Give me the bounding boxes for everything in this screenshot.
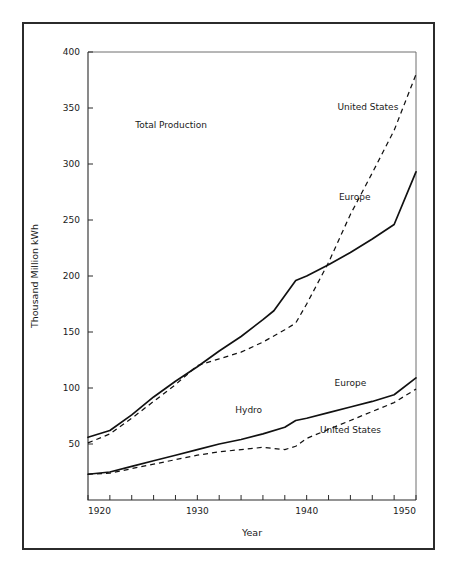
annotation-total-production: Total Production bbox=[134, 120, 207, 130]
series-line-total-production-europe bbox=[88, 172, 416, 437]
x-tick-label: 1950 bbox=[393, 506, 416, 516]
x-axis-title: Year bbox=[241, 527, 262, 538]
y-tick-label: 200 bbox=[63, 271, 80, 281]
y-tick-label: 50 bbox=[69, 439, 81, 449]
series-label-total-production-europe: Europe bbox=[339, 192, 371, 202]
y-tick-label: 100 bbox=[63, 383, 80, 393]
annotation-hydro: Hydro bbox=[235, 405, 262, 415]
y-tick-label: 350 bbox=[63, 103, 80, 113]
y-tick-label: 400 bbox=[63, 47, 80, 57]
line-chart: 501001502002503003504001920193019401950Y… bbox=[0, 0, 461, 575]
x-tick-label: 1940 bbox=[295, 506, 318, 516]
y-tick-label: 250 bbox=[63, 215, 80, 225]
chart-figure: 501001502002503003504001920193019401950Y… bbox=[0, 0, 461, 575]
x-tick-label: 1930 bbox=[186, 506, 209, 516]
series-label-hydro-united-states: United States bbox=[320, 425, 381, 435]
series-label-hydro-europe: Europe bbox=[335, 378, 367, 388]
x-tick-label: 1920 bbox=[88, 506, 111, 516]
series-label-total-production-united-states: United States bbox=[337, 102, 398, 112]
y-tick-label: 150 bbox=[63, 327, 80, 337]
y-axis-title: Thousand Million kWh bbox=[29, 224, 40, 329]
y-tick-label: 300 bbox=[63, 159, 80, 169]
